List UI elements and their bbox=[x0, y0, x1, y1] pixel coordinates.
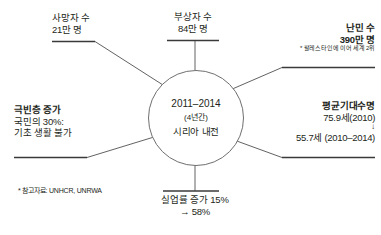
node-refugees: 난민 수 390만 명 * 팔레스타인에 이어 세계 2위 bbox=[243, 22, 375, 52]
center-duration: (4년간) bbox=[184, 111, 208, 122]
unemployment-line-2: → 58% bbox=[147, 206, 243, 218]
source-text: * 참고자료: UNHCR, UNRWA bbox=[18, 187, 102, 196]
node-deaths: 사망자 수 21만 명 bbox=[52, 12, 90, 35]
center-circle: 2011–2014 (4년간) 시리아 내전 bbox=[148, 70, 244, 166]
down-arrow-icon: ↓ bbox=[243, 123, 375, 132]
deaths-title: 사망자 수 bbox=[52, 12, 90, 24]
poverty-line-1: 국민의 30%: bbox=[14, 116, 72, 128]
injured-title: 부상자 수 bbox=[155, 11, 231, 23]
node-life-expectancy: 평균기대수명 75.9세(2010) ↓ 55.7세 (2010–2014) bbox=[243, 100, 375, 144]
node-poverty: 극빈층 증가 국민의 30%: 기초 생활 불가 bbox=[14, 104, 72, 139]
center-conflict-name: 시리아 내전 bbox=[173, 124, 219, 138]
deaths-value: 21만 명 bbox=[52, 24, 90, 36]
center-years: 2011–2014 bbox=[171, 98, 220, 109]
refugees-note: * 팔레스타인에 이어 세계 2위 bbox=[243, 45, 375, 52]
unemployment-line-1: 실업률 증가 15% bbox=[147, 194, 243, 206]
poverty-connector bbox=[87, 137, 154, 158]
life-expectancy-after: 55.7세 (2010–2014) bbox=[243, 132, 375, 144]
refugees-title: 난민 수 bbox=[243, 22, 375, 34]
source-footnote: * 참고자료: UNHCR, UNRWA bbox=[18, 187, 102, 196]
refugees-value: 390만 명 bbox=[243, 34, 375, 46]
deaths-connector bbox=[95, 42, 163, 86]
node-unemployment: 실업률 증가 15% → 58% bbox=[147, 194, 243, 217]
life-expectancy-before: 75.9세(2010) bbox=[243, 112, 375, 124]
poverty-line-2: 기초 생활 불가 bbox=[14, 127, 72, 139]
poverty-title: 극빈층 증가 bbox=[14, 104, 72, 116]
life-expectancy-title: 평균기대수명 bbox=[243, 100, 375, 112]
syria-civil-war-infographic: 2011–2014 (4년간) 시리아 내전 사망자 수 21만 명 부상자 수… bbox=[0, 0, 381, 235]
injured-value: 84만 명 bbox=[155, 23, 231, 35]
refugees-connector bbox=[230, 68, 282, 91]
node-injured: 부상자 수 84만 명 bbox=[155, 11, 231, 34]
